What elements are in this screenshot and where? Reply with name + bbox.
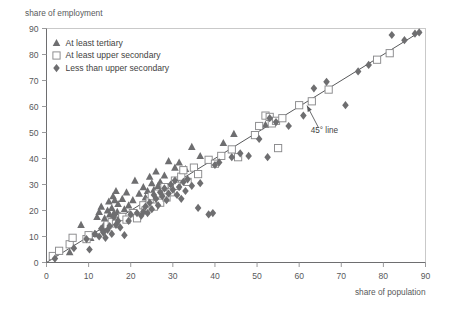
marker-diamond bbox=[311, 84, 318, 92]
marker-square bbox=[195, 171, 202, 178]
x-tick-label: 40 bbox=[210, 271, 220, 281]
y-tick-label: 90 bbox=[29, 24, 39, 34]
y-tick-label: 60 bbox=[29, 102, 39, 112]
marker-triangle bbox=[123, 188, 131, 195]
annotation-45deg-line: 45° line bbox=[307, 106, 339, 135]
y-tick-label: 30 bbox=[29, 180, 39, 190]
x-tick-label: 0 bbox=[44, 271, 49, 281]
marker-triangle bbox=[97, 203, 105, 210]
legend: At least tertiaryAt least upper secondar… bbox=[53, 38, 170, 73]
marker-triangle bbox=[146, 173, 154, 180]
marker-diamond bbox=[86, 245, 93, 253]
marker-diamond bbox=[389, 31, 396, 39]
x-axis-title: share of population bbox=[355, 287, 426, 297]
marker-diamond bbox=[121, 231, 128, 239]
y-tick-label: 20 bbox=[29, 206, 39, 216]
marker-triangle bbox=[188, 143, 196, 150]
legend-item-label: Less than upper secondary bbox=[66, 63, 170, 73]
marker-square bbox=[56, 247, 63, 254]
marker-square bbox=[53, 52, 60, 59]
marker-square bbox=[308, 98, 315, 105]
marker-diamond bbox=[197, 179, 204, 187]
y-tick-label: 0 bbox=[34, 258, 39, 268]
marker-triangle bbox=[119, 195, 127, 202]
marker-triangle bbox=[112, 187, 120, 194]
marker-triangle bbox=[230, 130, 238, 137]
marker-square bbox=[325, 86, 332, 93]
marker-triangle bbox=[108, 204, 116, 211]
x-tick-label: 30 bbox=[168, 271, 178, 281]
marker-triangle bbox=[148, 179, 156, 186]
marker-diamond bbox=[300, 112, 307, 120]
marker-square bbox=[386, 50, 393, 57]
legend-item-label: At least upper secondary bbox=[66, 50, 162, 60]
marker-triangle bbox=[140, 183, 148, 190]
marker-square bbox=[296, 102, 303, 109]
marker-triangle bbox=[135, 190, 143, 197]
marker-square bbox=[256, 122, 263, 129]
marker-triangle bbox=[53, 39, 61, 46]
marker-square bbox=[228, 146, 235, 153]
marker-triangle bbox=[220, 139, 228, 146]
marker-square bbox=[373, 56, 380, 63]
marker-triangle bbox=[165, 157, 173, 164]
marker-square bbox=[279, 115, 286, 122]
marker-diamond bbox=[195, 204, 202, 212]
marker-square bbox=[218, 152, 225, 159]
y-axis-title: share of employment bbox=[25, 8, 103, 18]
y-tick-label: 50 bbox=[29, 128, 39, 138]
marker-square bbox=[275, 145, 282, 152]
y-tick-label: 40 bbox=[29, 154, 39, 164]
y-tick-label: 80 bbox=[29, 50, 39, 60]
marker-diamond bbox=[264, 153, 271, 161]
y-tick-label: 70 bbox=[29, 76, 39, 86]
annotation-arrowhead bbox=[307, 106, 312, 112]
marker-triangle bbox=[129, 196, 137, 203]
marker-triangle bbox=[131, 177, 139, 184]
x-tick-label: 80 bbox=[379, 271, 389, 281]
x-tick-label: 70 bbox=[336, 271, 346, 281]
marker-diamond bbox=[285, 122, 292, 130]
x-tick-label: 60 bbox=[294, 271, 304, 281]
marker-square bbox=[69, 234, 76, 241]
marker-diamond bbox=[323, 78, 330, 86]
scatter-chart: 01020304050607080900102030405060708090sh… bbox=[0, 0, 461, 319]
x-tick-label: 10 bbox=[84, 271, 94, 281]
marker-triangle bbox=[175, 158, 183, 165]
marker-triangle bbox=[77, 221, 85, 228]
annotation-label: 45° line bbox=[311, 126, 339, 135]
marker-diamond bbox=[245, 152, 252, 160]
marker-square bbox=[180, 167, 187, 174]
legend-item-label: At least tertiary bbox=[66, 38, 124, 48]
marker-diamond bbox=[182, 187, 189, 195]
marker-diamond bbox=[342, 101, 349, 109]
x-tick-label: 90 bbox=[421, 271, 431, 281]
x-tick-label: 20 bbox=[126, 271, 136, 281]
marker-diamond bbox=[53, 64, 60, 72]
marker-triangle bbox=[196, 152, 204, 159]
marker-triangle bbox=[161, 171, 169, 178]
y-tick-label: 10 bbox=[29, 232, 39, 242]
marker-triangle bbox=[152, 168, 160, 175]
x-tick-label: 50 bbox=[252, 271, 262, 281]
chart-canvas: 01020304050607080900102030405060708090sh… bbox=[0, 0, 461, 319]
